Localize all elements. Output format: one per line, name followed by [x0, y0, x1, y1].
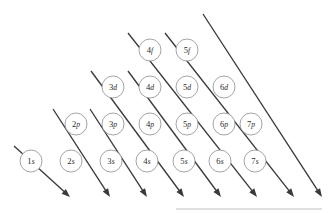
orbital-label-4d: 4d: [146, 82, 154, 92]
arrow-3s-3p-head-icon: [140, 188, 147, 197]
orbital-node-4p[interactable]: 4p: [139, 113, 161, 135]
orbital-label-2p: 2p: [72, 119, 80, 129]
orbital-node-7s[interactable]: 7s: [244, 150, 266, 172]
orbital-label-3s: 3s: [107, 156, 114, 166]
orbital-label-4f: 4f: [147, 45, 154, 55]
orbital-node-6d[interactable]: 6d: [213, 76, 235, 98]
aufbau-diagram-root: 4f5f3d4d5d6d2p3p4p5p6p7p1s2s3s4s5s6s7s: [0, 0, 332, 213]
orbital-label-6d: 6d: [220, 82, 228, 92]
orbital-label-7s: 7s: [251, 156, 258, 166]
orbital-label-5d: 5d: [183, 82, 191, 92]
orbital-label-5p: 5p: [183, 119, 191, 129]
arrow-4s-3d-4p-head-icon: [176, 188, 184, 197]
arrow-5s-4d-5p-head-icon: [213, 188, 221, 197]
orbital-row-s: 1s2s3s4s5s6s7s: [20, 150, 266, 172]
orbital-node-2s[interactable]: 2s: [60, 150, 82, 172]
orbital-label-5f: 5f: [184, 45, 191, 55]
orbital-label-1s: 1s: [27, 156, 34, 166]
diagonal-arrows-layer: [14, 14, 322, 197]
orbital-node-5d[interactable]: 5d: [176, 76, 198, 98]
orbital-label-6p: 6p: [220, 119, 228, 129]
orbital-label-6s: 6s: [216, 156, 223, 166]
orbital-label-3p: 3p: [109, 119, 117, 129]
orbital-node-5f[interactable]: 5f: [176, 39, 198, 61]
orbital-label-5s: 5s: [180, 156, 187, 166]
orbital-node-4s[interactable]: 4s: [136, 150, 158, 172]
aufbau-diagram-canvas: 4f5f3d4d5d6d2p3p4p5p6p7p1s2s3s4s5s6s7s: [0, 0, 332, 213]
orbital-label-2s: 2s: [67, 156, 74, 166]
arrow-2s-2p-head-icon: [103, 188, 110, 197]
orbital-node-4d[interactable]: 4d: [139, 76, 161, 98]
orbital-label-7p: 7p: [247, 119, 255, 129]
orbital-label-3d: 3d: [109, 82, 117, 92]
orbital-node-3d[interactable]: 3d: [102, 76, 124, 98]
orbital-node-5p[interactable]: 5p: [176, 113, 198, 135]
orbital-label-4s: 4s: [143, 156, 150, 166]
orbital-row-f: 4f5f: [139, 39, 198, 61]
orbital-node-4f[interactable]: 4f: [139, 39, 161, 61]
orbital-label-4p: 4p: [146, 119, 154, 129]
orbital-node-1s[interactable]: 1s: [20, 150, 42, 172]
orbital-row-d: 3d4d5d6d: [102, 76, 235, 98]
orbital-node-2p[interactable]: 2p: [65, 113, 87, 135]
arrow-1s-shaft: [14, 146, 65, 193]
orbital-node-3p[interactable]: 3p: [102, 113, 124, 135]
arrow-8s-tail-head-icon: [315, 188, 322, 197]
orbital-node-6p[interactable]: 6p: [213, 113, 235, 135]
orbital-circles-layer: 4f5f3d4d5d6d2p3p4p5p6p7p1s2s3s4s5s6s7s: [20, 39, 266, 172]
orbital-node-5s[interactable]: 5s: [173, 150, 195, 172]
orbital-node-7p[interactable]: 7p: [240, 113, 262, 135]
orbital-node-6s[interactable]: 6s: [209, 150, 231, 172]
orbital-node-3s[interactable]: 3s: [100, 150, 122, 172]
